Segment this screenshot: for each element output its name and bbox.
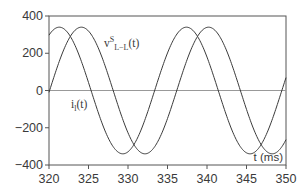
y-tick-400: 400 xyxy=(22,9,43,23)
y-axis xyxy=(45,16,49,165)
x-tick-345: 345 xyxy=(236,172,257,186)
y-tick-neg400: −400 xyxy=(15,158,43,172)
x-tick-340: 340 xyxy=(197,172,218,186)
x-axis-label: t (ms) xyxy=(254,151,284,163)
chart: 400 200 0 −200 −400 320 325 330 335 340 … xyxy=(0,0,306,193)
x-tick-320: 320 xyxy=(39,172,60,186)
x-tick-350: 350 xyxy=(276,172,297,186)
x-tick-335: 335 xyxy=(157,172,178,186)
x-tick-325: 325 xyxy=(78,172,99,186)
x-tick-330: 330 xyxy=(118,172,139,186)
label-i-line: il(t) xyxy=(71,98,87,113)
y-tick-0: 0 xyxy=(36,84,43,98)
x-axis xyxy=(49,165,286,169)
y-tick-neg200: −200 xyxy=(15,121,43,135)
y-tick-200: 200 xyxy=(22,46,43,60)
label-v-line-to-line: vSL−L(t) xyxy=(104,35,140,52)
